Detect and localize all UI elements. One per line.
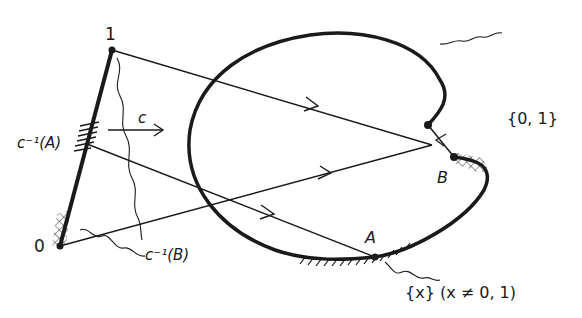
label-set-x: {x} (x ≠ 0, 1) — [405, 283, 516, 302]
label-point-B: B — [437, 168, 448, 187]
label-point-A: A — [364, 228, 376, 247]
dot-0-1 — [424, 121, 432, 129]
ray-arrowheads — [260, 97, 331, 219]
connector-segment — [428, 125, 454, 157]
rays — [60, 50, 432, 257]
label-preimage-A: c⁻¹(A) — [17, 134, 61, 152]
label-point-one: 1 — [105, 24, 116, 44]
label-set-0-1: {0, 1} — [507, 109, 558, 128]
diagram-canvas: 1 0 c c⁻¹(A) c⁻¹(B) A B {0, 1} {x} (x ≠ … — [0, 0, 582, 318]
map-c-arrow — [108, 124, 163, 136]
label-preimage-B: c⁻¹(B) — [145, 246, 189, 264]
point-A-dot — [372, 254, 379, 261]
label-map-c: c — [138, 109, 147, 127]
squiggle-leaders — [80, 33, 502, 281]
loop-curve — [189, 33, 487, 259]
preimage-B-crosshatch — [52, 210, 70, 246]
B-crosshatch — [452, 152, 490, 172]
label-point-zero: 0 — [34, 236, 45, 256]
